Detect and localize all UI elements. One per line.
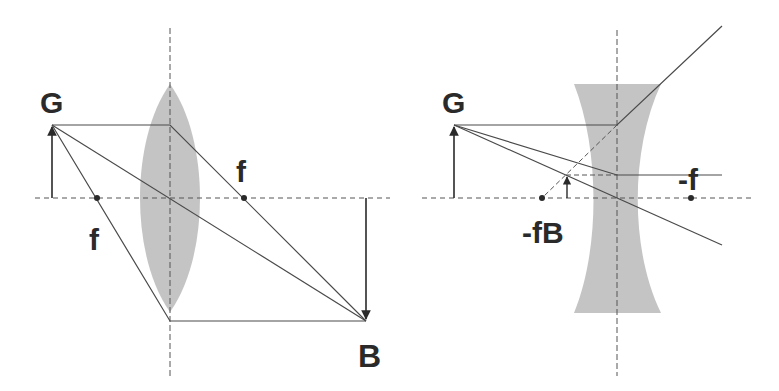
focal-point-left bbox=[94, 195, 100, 201]
focal-label-right: -f bbox=[678, 163, 699, 196]
lens-diagrams: G f f B G -f -fB bbox=[0, 0, 779, 391]
object-label: G bbox=[442, 86, 465, 119]
ray-central bbox=[52, 125, 366, 321]
diverging-lens-diagram: G -f -fB bbox=[422, 26, 752, 376]
image-label: B bbox=[358, 338, 381, 374]
image-focal-label: -fB bbox=[522, 216, 564, 249]
focal-point-right bbox=[241, 195, 247, 201]
object-label: G bbox=[40, 86, 63, 119]
converging-lens-diagram: G f f B bbox=[35, 28, 390, 376]
focal-point-left bbox=[539, 195, 545, 201]
focal-label-right: f bbox=[236, 155, 247, 188]
focal-label-left: f bbox=[89, 223, 100, 256]
